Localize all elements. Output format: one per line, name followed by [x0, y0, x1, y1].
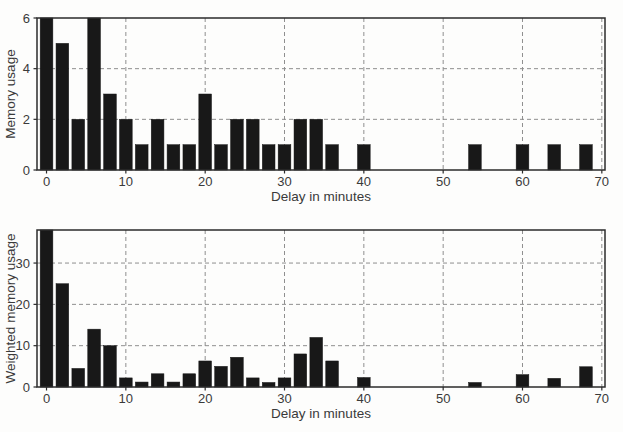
bar	[357, 377, 370, 387]
x-tick-label: 60	[515, 391, 529, 406]
y-tick-label: 0	[23, 163, 30, 178]
bar	[262, 145, 275, 170]
bar	[246, 378, 259, 387]
bar	[199, 361, 212, 387]
x-tick-label: 50	[436, 174, 450, 189]
bar	[104, 346, 117, 387]
bar	[548, 145, 561, 170]
x-tick-label: 40	[357, 174, 371, 189]
y-tick-label: 4	[23, 61, 30, 76]
x-tick-label: 50	[436, 391, 450, 406]
bar	[199, 94, 212, 170]
x-tick-label: 40	[357, 391, 371, 406]
bar	[72, 119, 85, 170]
x-tick-label: 70	[595, 391, 609, 406]
x-axis-label: Delay in minutes	[271, 189, 371, 204]
x-tick-label: 10	[119, 391, 133, 406]
bar	[120, 119, 133, 170]
bar	[580, 145, 593, 170]
bar	[357, 145, 370, 170]
bar	[310, 119, 323, 170]
bar	[246, 119, 259, 170]
x-tick-label: 30	[277, 391, 291, 406]
bar	[278, 378, 291, 387]
bar	[310, 337, 323, 387]
x-tick-label: 20	[198, 391, 212, 406]
x-tick-label: 0	[43, 391, 50, 406]
bar	[215, 366, 228, 387]
x-tick-label: 20	[198, 174, 212, 189]
y-tick-label: 6	[23, 11, 30, 26]
bar	[56, 43, 69, 170]
bar	[40, 230, 53, 387]
bar	[516, 145, 529, 170]
x-tick-label: 0	[43, 174, 50, 189]
bar	[183, 145, 196, 170]
bar	[231, 119, 244, 170]
bar	[326, 361, 339, 387]
x-tick-label: 30	[277, 174, 291, 189]
bar	[151, 119, 164, 170]
bar	[88, 18, 101, 170]
bar	[135, 145, 148, 170]
bar	[40, 18, 53, 170]
bar	[183, 374, 196, 387]
bar	[278, 145, 291, 170]
bar	[72, 368, 85, 387]
bar	[326, 145, 339, 170]
bar	[548, 378, 561, 387]
bar	[167, 145, 180, 170]
bar	[294, 119, 307, 170]
y-axis-label: Memory usage	[3, 49, 18, 138]
bar	[120, 378, 133, 387]
bar	[231, 357, 244, 387]
bar	[56, 284, 69, 387]
bar	[88, 329, 101, 387]
bar	[469, 145, 482, 170]
bar	[104, 94, 117, 170]
y-tick-label: 2	[23, 112, 30, 127]
x-tick-label: 60	[515, 174, 529, 189]
bar	[294, 354, 307, 387]
x-tick-label: 70	[595, 174, 609, 189]
figure-page: 0102030405060700246Delay in minutesMemor…	[0, 0, 623, 432]
bar	[516, 375, 529, 387]
bar	[215, 145, 228, 170]
bar	[580, 367, 593, 387]
x-tick-label: 10	[119, 174, 133, 189]
x-axis-label: Delay in minutes	[271, 406, 371, 421]
charts-canvas: 0102030405060700246Delay in minutesMemor…	[0, 0, 623, 432]
bar	[151, 374, 164, 387]
y-axis-label: Weighted memory usage	[3, 234, 18, 384]
y-tick-label: 0	[23, 380, 30, 395]
